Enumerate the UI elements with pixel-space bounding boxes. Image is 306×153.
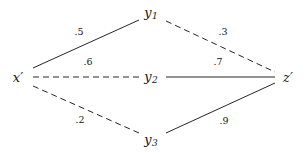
edge-x-y3 xyxy=(33,86,139,133)
edge-weight-y2-z: .7 xyxy=(213,57,222,67)
edge-weight-x-y1: .5 xyxy=(74,27,83,37)
edge-weight-y3-z: .9 xyxy=(219,116,228,126)
node-label-y2: y2 xyxy=(144,70,157,85)
node-prime-x: ′ xyxy=(20,70,23,85)
node-subscript-y2: 2 xyxy=(152,74,158,84)
edge-weight-x-y3: .2 xyxy=(75,115,84,125)
node-label-z: z′ xyxy=(283,71,293,84)
path-diagram: x′y1y2y3z′ .5.6.2.3.7.9 xyxy=(0,0,306,153)
node-prime-z: ′ xyxy=(290,70,293,85)
edge-weight-x-y2: .6 xyxy=(83,57,92,67)
node-base-y1: y xyxy=(144,5,151,20)
node-base-y2: y xyxy=(144,69,151,84)
node-subscript-y1: 1 xyxy=(152,10,158,20)
node-label-y3: y3 xyxy=(144,133,157,148)
node-subscript-y3: 3 xyxy=(152,137,158,147)
edge-weight-y1-z: .3 xyxy=(218,27,227,37)
node-base-y3: y xyxy=(144,132,151,147)
node-base-z: z xyxy=(283,70,290,85)
node-label-x: x′ xyxy=(13,71,23,84)
node-label-y1: y1 xyxy=(144,6,157,21)
